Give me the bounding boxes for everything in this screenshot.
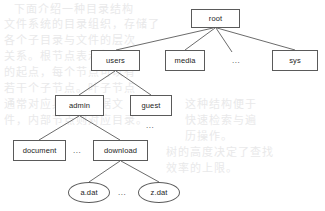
tree-node-root[interactable]: root	[191, 9, 240, 28]
tree-node-label: admin	[69, 101, 90, 110]
ellipsis-marker-dots-download-child: ...	[118, 189, 126, 197]
tree-node-document[interactable]: document	[13, 140, 66, 161]
tree-node-media[interactable]: media	[165, 50, 205, 71]
ellipsis-marker-dots-root-row: ...	[232, 57, 240, 65]
tree-node-label: a.dat	[80, 188, 97, 197]
tree-node-label: users	[106, 56, 125, 65]
tree-edge-download-to-adat	[89, 161, 120, 182]
tree-node-label: root	[209, 14, 222, 23]
tree-edge-root-to-users	[116, 28, 213, 50]
tree-node-label: document	[23, 146, 57, 155]
tree-node-download[interactable]: download	[93, 140, 148, 161]
tree-edge-users-to-guest	[116, 71, 151, 95]
tree-node-label: z.dat	[151, 188, 168, 197]
tree-node-sys[interactable]: sys	[272, 50, 318, 71]
tree-node-label: download	[104, 146, 137, 155]
tree-node-label: sys	[289, 56, 301, 65]
ellipsis-marker-dots-guest-child: ...	[146, 122, 154, 130]
tree-node-guest[interactable]: guest	[130, 95, 172, 116]
tree-edge-admin-to-document	[39, 116, 79, 140]
tree-node-users[interactable]: users	[91, 50, 140, 71]
tree-node-adat[interactable]: a.dat	[68, 182, 110, 203]
tree-node-label: media	[175, 56, 196, 65]
tree-edge-download-to-zdat	[121, 161, 159, 182]
tree-node-admin[interactable]: admin	[55, 95, 104, 116]
tree-diagram-canvas: 下面介绍一种目录结构文件系统的目录组织，存储了各个子目录与文件的层次关系。根节点…	[0, 0, 325, 211]
tree-edge-users-to-admin	[79, 71, 115, 95]
tree-node-zdat[interactable]: z.dat	[138, 182, 180, 203]
tree-node-label: guest	[142, 101, 161, 110]
ellipsis-marker-dots-admin-child: ...	[73, 147, 81, 155]
tree-edge-admin-to-download	[80, 116, 120, 140]
